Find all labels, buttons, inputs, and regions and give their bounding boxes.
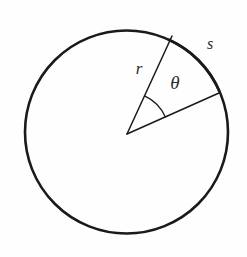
circle-sector-diagram: r θ s <box>0 0 247 257</box>
arc-length-label: s <box>207 35 213 52</box>
central-angle-arc <box>145 96 166 117</box>
angle-label: θ <box>170 72 179 93</box>
radius-label: r <box>136 59 143 78</box>
diagram-canvas: r θ s <box>0 0 247 257</box>
radius-line-lower <box>127 93 219 134</box>
radius-line-upper <box>127 36 172 134</box>
